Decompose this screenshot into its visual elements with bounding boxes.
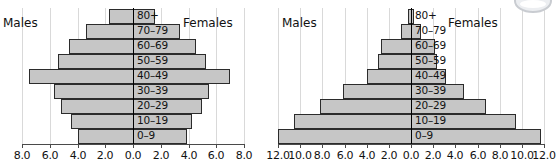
x-axis-tick-label: 8.0 xyxy=(14,149,31,162)
age-group-label: 50–59 xyxy=(415,53,446,68)
x-axis-tick-label: 4.0 xyxy=(359,149,376,162)
pyramid-chart-left: 80+70–7960–6950–5940–4930–3920–2910–190–… xyxy=(0,0,262,162)
axis-tick xyxy=(478,144,479,148)
age-group-label: 10–19 xyxy=(137,113,168,128)
axis-tick xyxy=(189,144,190,148)
age-group-label: 30–39 xyxy=(137,83,168,98)
x-axis-tick-label: 10.0 xyxy=(510,149,533,162)
axis-tick xyxy=(50,144,51,148)
axis-tick xyxy=(105,144,106,148)
age-group-label: 70–79 xyxy=(415,23,446,38)
x-axis-tick-label: 0.0 xyxy=(125,149,142,162)
age-group-label: 60–69 xyxy=(137,38,168,53)
age-group-label: 70–79 xyxy=(137,23,168,38)
axis-tick xyxy=(500,144,501,148)
x-axis-tick-label: 4.0 xyxy=(70,149,87,162)
age-group-label: 80+ xyxy=(137,8,159,23)
age-group-label: 60–69 xyxy=(415,38,446,53)
age-group-label: 10–19 xyxy=(415,113,446,128)
age-group-label: 20–29 xyxy=(415,98,446,113)
x-axis-tick-label: 2.0 xyxy=(425,149,442,162)
x-axis-tick-label: 2.0 xyxy=(381,149,398,162)
chart-divider xyxy=(262,0,272,162)
axis-tick xyxy=(389,144,390,148)
axis-tick xyxy=(133,144,134,148)
x-axis-tick-label: 12.0 xyxy=(266,149,289,162)
age-group-label: 50–59 xyxy=(137,53,168,68)
axis-tick xyxy=(544,144,545,148)
axis-tick xyxy=(433,144,434,148)
x-axis-tick-label: 6.0 xyxy=(470,149,487,162)
age-group-label: 0–9 xyxy=(137,128,155,143)
axis-tick xyxy=(522,144,523,148)
females-caption: Females xyxy=(448,16,498,30)
age-group-label: 40–49 xyxy=(415,68,446,83)
axis-tick xyxy=(216,144,217,148)
x-axis-tick-label: 2.0 xyxy=(153,149,170,162)
x-axis-tick-label: 4.0 xyxy=(181,149,198,162)
x-axis-tick-label: 8.0 xyxy=(314,149,331,162)
pyramid-chart-right: 80+70–7960–6950–5940–4930–3920–2910–190–… xyxy=(272,0,554,162)
x-axis-tick-label: 6.0 xyxy=(42,149,59,162)
age-group-label: 80+ xyxy=(415,8,437,23)
x-axis-tick-label: 8.0 xyxy=(492,149,509,162)
x-axis-tick-label: 0.0 xyxy=(403,149,420,162)
x-axis-tick-label: 6.0 xyxy=(337,149,354,162)
males-caption: Males xyxy=(3,16,38,30)
axis-tick xyxy=(322,144,323,148)
axis-tick xyxy=(367,144,368,148)
axis-tick xyxy=(244,144,245,148)
x-axis-tick-label: 12.0 xyxy=(532,149,555,162)
axis-tick xyxy=(78,144,79,148)
age-group-label: 30–39 xyxy=(415,83,446,98)
x-axis-tick-label: 4.0 xyxy=(447,149,464,162)
axis-tick xyxy=(411,144,412,148)
axis-tick xyxy=(22,144,23,148)
age-group-label: 40–49 xyxy=(137,68,168,83)
axis-tick xyxy=(300,144,301,148)
axis-tick xyxy=(455,144,456,148)
x-axis-tick-label: 10.0 xyxy=(288,149,311,162)
age-group-label: 0–9 xyxy=(415,128,433,143)
axis-tick xyxy=(345,144,346,148)
females-caption: Females xyxy=(183,16,233,30)
x-axis-tick-label: 8.0 xyxy=(236,149,253,162)
axis-tick xyxy=(161,144,162,148)
x-axis-tick-label: 6.0 xyxy=(208,149,225,162)
age-group-label: 20–29 xyxy=(137,98,168,113)
males-caption: Males xyxy=(282,16,317,30)
axis-tick xyxy=(278,144,279,148)
x-axis-tick-label: 2.0 xyxy=(97,149,114,162)
